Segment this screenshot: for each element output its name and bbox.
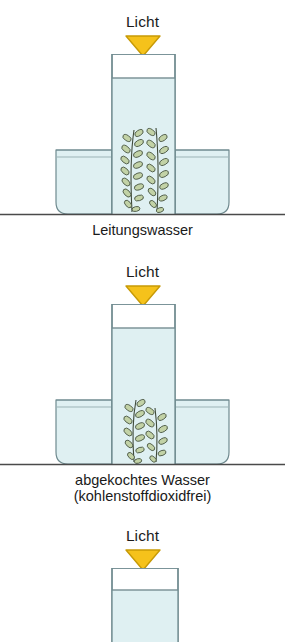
inner-tube-3 (112, 568, 178, 642)
experiment-3: Licht (0, 520, 285, 642)
caption-1-line-1: Leitungswasser (92, 222, 193, 238)
experiment-1: Licht (0, 0, 285, 255)
light-label-2: Licht (0, 264, 285, 280)
caption-1: Leitungswasser (0, 222, 285, 238)
light-label-3: Licht (0, 528, 285, 544)
figure-canvas: Licht (0, 0, 285, 642)
caption-2-line-1: abgekochtes Wasser (75, 472, 210, 488)
apparatus-3 (0, 568, 285, 642)
apparatus-2 (0, 304, 285, 469)
inner-tube-1 (112, 54, 175, 214)
apparatus-1 (0, 54, 285, 219)
caption-2-line-2: (kohlenstoffdioxidfrei) (0, 488, 285, 504)
caption-2: abgekochtes Wasser (kohlenstoffdioxidfre… (0, 472, 285, 504)
experiment-2: Licht (0, 255, 285, 520)
light-label-1: Licht (0, 14, 285, 30)
